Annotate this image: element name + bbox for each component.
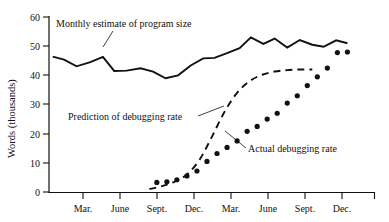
y-tick-label-20: 20 — [30, 129, 40, 140]
series-actual-debugging-dots — [154, 49, 350, 185]
data-point — [305, 83, 310, 88]
leader-line-monthly-estimate — [103, 31, 113, 47]
y-tick-label-0: 0 — [35, 187, 40, 198]
chart-figure: 60 50 40 30 20 10 0 Words (thousands) Ma… — [0, 0, 389, 222]
leader-line-prediction — [198, 106, 224, 116]
data-point — [275, 111, 280, 116]
chart-svg: 60 50 40 30 20 10 0 Words (thousands) Ma… — [0, 0, 389, 222]
data-point — [315, 74, 320, 79]
annotation-prediction: Prediction of debugging rate — [68, 106, 224, 122]
x-axis: Mar. June Sept. Dec. Mar. June Sept. Dec… — [49, 192, 375, 214]
data-point — [255, 124, 260, 129]
data-point — [224, 145, 229, 150]
data-point — [214, 151, 219, 156]
annotation-label-monthly-estimate: Monthly estimate of program size — [56, 18, 192, 29]
data-point — [335, 50, 340, 55]
data-point — [345, 49, 350, 54]
data-point — [285, 100, 290, 105]
data-point — [164, 179, 169, 184]
series-monthly-estimate-line — [53, 37, 348, 78]
data-point — [194, 168, 199, 173]
y-tick-label-60: 60 — [30, 12, 40, 23]
y-axis-title: Words (thousands) — [6, 79, 18, 158]
y-tick-label-50: 50 — [30, 41, 40, 52]
x-tick-label-sept-2: Sept. — [295, 203, 315, 214]
annotation-actual: Actual debugging rate — [225, 131, 337, 154]
x-tick-label-sept-1: Sept. — [147, 203, 167, 214]
data-point — [174, 177, 179, 182]
data-point — [204, 159, 209, 164]
x-tick-label-mar-2: Mar. — [222, 203, 241, 214]
x-tick-label-dec-1: Dec. — [185, 203, 204, 214]
x-tick-label-dec-2: Dec. — [333, 203, 352, 214]
x-tick-label-june-1: June — [111, 203, 130, 214]
data-point — [265, 116, 270, 121]
annotation-monthly-estimate: Monthly estimate of program size — [56, 18, 192, 47]
data-point — [295, 93, 300, 98]
y-axis: 60 50 40 30 20 10 0 Words (thousands) — [6, 12, 49, 198]
annotation-label-prediction: Prediction of debugging rate — [68, 111, 183, 122]
x-tick-label-mar-1: Mar. — [74, 203, 93, 214]
data-point — [325, 65, 330, 70]
data-point — [245, 129, 250, 134]
data-point — [184, 173, 189, 178]
y-tick-label-40: 40 — [30, 70, 40, 81]
series-prediction-dashed-line — [149, 69, 312, 189]
x-tick-label-june-2: June — [259, 203, 278, 214]
annotation-label-actual: Actual debugging rate — [248, 143, 337, 154]
data-point — [154, 180, 159, 185]
y-tick-label-30: 30 — [30, 99, 40, 110]
y-tick-label-10: 10 — [30, 158, 40, 169]
